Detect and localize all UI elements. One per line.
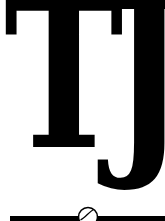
monogram: TJ [4,0,165,178]
monogram-letter-t: T [4,0,110,178]
baseball-icon [77,206,99,221]
monogram-letter-j: J [110,0,165,178]
